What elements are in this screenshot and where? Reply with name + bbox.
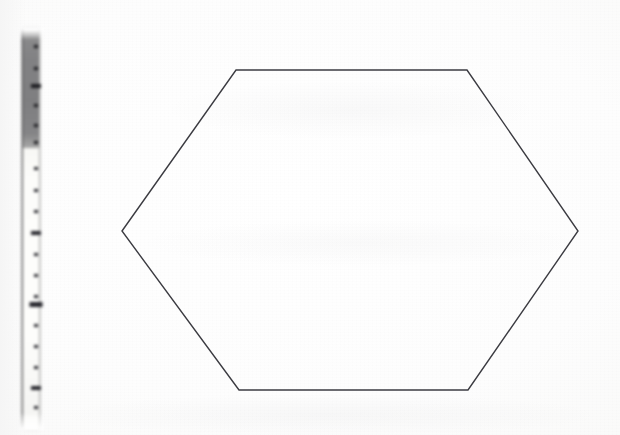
hexagon-svg: [0, 0, 620, 435]
hexagon-drawing-area: [0, 0, 620, 435]
scanned-page: Hexagon outline with scale ruler scanned…: [0, 0, 620, 435]
hexagon-outline: [122, 70, 578, 390]
